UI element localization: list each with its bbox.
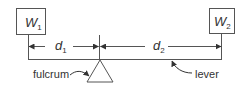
lever-diagram: W1 W2 d1 d2 fulcrum lever — [0, 0, 238, 89]
weight-2: W2 — [210, 9, 235, 34]
lever-label: lever — [195, 68, 219, 80]
svg-text:d1: d1 — [55, 38, 67, 55]
weight-2-subscript: 2 — [226, 22, 231, 31]
weight-1-subscript: 1 — [37, 23, 42, 32]
svg-text:d2: d2 — [153, 38, 165, 55]
distance-1-subscript: 1 — [62, 46, 67, 55]
lever-arrow-icon — [172, 61, 192, 73]
weight-1: W1 — [17, 9, 46, 35]
distance-2-subscript: 2 — [160, 46, 165, 55]
fulcrum-arrow-icon — [70, 71, 89, 76]
distance-d1: d1 — [29, 38, 99, 55]
fulcrum-triangle-icon — [87, 60, 113, 82]
distance-d2: d2 — [101, 38, 222, 55]
fulcrum-label: fulcrum — [33, 68, 69, 80]
